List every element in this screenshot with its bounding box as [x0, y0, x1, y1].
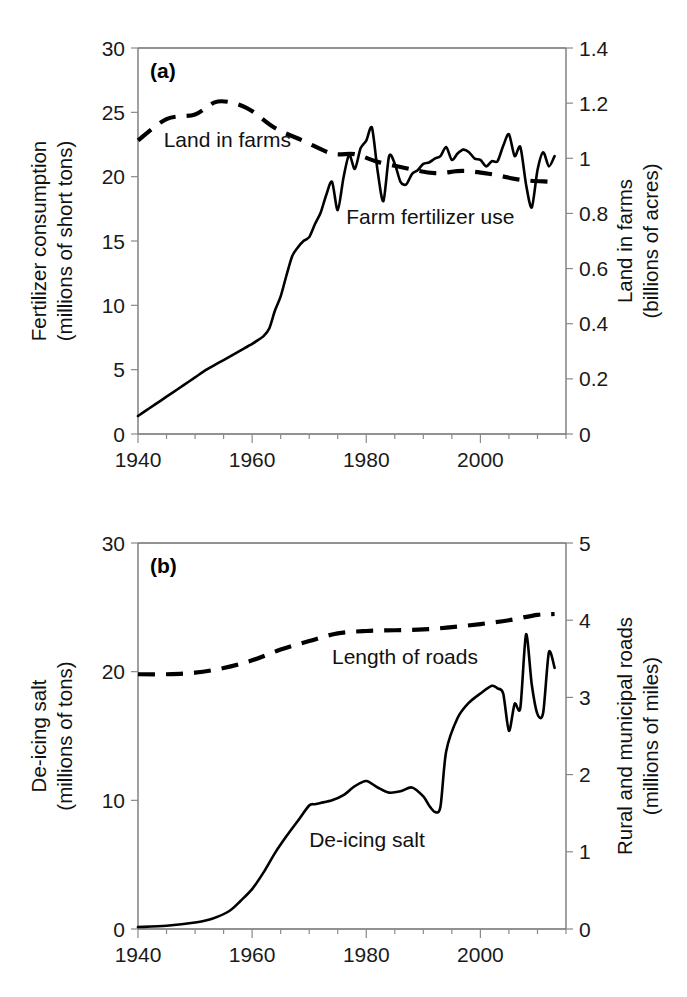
annotation-length-of-roads: Length of roads: [332, 645, 478, 668]
y2-axis-tick-label: 0.2: [579, 367, 608, 390]
chart-b-svg: 01020300123451940196019802000De-icing sa…: [0, 495, 687, 997]
y2-axis-title-line2: (millions of miles): [639, 657, 662, 815]
y2-axis-tick-label: 5: [579, 532, 591, 555]
figure-container: 05101520253000.20.40.60.811.21.419401960…: [0, 0, 687, 997]
y2-axis-title-line1: Land in farms: [613, 179, 636, 303]
y-axis-tick-label: 10: [102, 789, 125, 812]
series-line-farm-fertilizer-use: [138, 127, 555, 416]
y2-axis-tick-label: 4: [579, 609, 591, 632]
y-axis-tick-label: 20: [102, 165, 125, 188]
y-axis-tick-label: 30: [102, 532, 125, 555]
y2-axis-tick-label: 0: [579, 423, 591, 446]
annotation-de-icing-salt: De-icing salt: [309, 828, 425, 851]
x-axis-tick-label: 1940: [115, 448, 162, 471]
x-axis-tick-label: 1940: [115, 943, 162, 966]
y2-axis-tick-label: 2: [579, 763, 591, 786]
x-axis-tick-label: 2000: [457, 943, 504, 966]
chart-panel-b: 01020300123451940196019802000De-icing sa…: [0, 495, 687, 997]
y-axis-tick-label: 15: [102, 230, 125, 253]
x-axis-tick-label: 1980: [343, 943, 390, 966]
y-axis-tick-label: 20: [102, 660, 125, 683]
chart-panel-a: 05101520253000.20.40.60.811.21.419401960…: [0, 0, 687, 500]
y2-axis-tick-label: 1: [579, 840, 591, 863]
chart-a-svg: 05101520253000.20.40.60.811.21.419401960…: [0, 0, 687, 500]
x-axis-tick-label: 1960: [229, 943, 276, 966]
x-axis-tick-label: 2000: [457, 448, 504, 471]
annotation-farm-fertilizer-use: Farm fertilizer use: [346, 205, 514, 228]
annotation-land-in-farms: Land in farms: [164, 128, 291, 151]
x-axis-tick-label: 1960: [229, 448, 276, 471]
y2-axis-tick-label: 1.4: [579, 37, 609, 60]
y-axis-tick-label: 0: [113, 423, 125, 446]
y-axis-title-line1: De-icing salt: [27, 679, 50, 792]
y2-axis-tick-label: 1.2: [579, 92, 608, 115]
y2-axis-tick-label: 0.6: [579, 257, 608, 280]
y2-axis-tick-label: 1: [579, 147, 591, 170]
y-axis-title-line2: (millions of short tons): [53, 141, 76, 342]
y2-axis-title-line1: Rural and municipal roads: [613, 617, 636, 855]
y2-axis-tick-label: 3: [579, 686, 591, 709]
y-axis-title-line2: (millions of tons): [53, 661, 76, 810]
panel-tag-label: (b): [150, 554, 177, 577]
y2-axis-tick-label: 0: [579, 918, 591, 941]
y2-axis-tick-label: 0.4: [579, 312, 609, 335]
y-axis-tick-label: 30: [102, 37, 125, 60]
y2-axis-tick-label: 0.8: [579, 202, 608, 225]
y2-axis-title-line2: (billions of acres): [639, 164, 662, 319]
series-line-de-icing-salt: [138, 634, 555, 927]
y-axis-title-line1: Fertilizer consumption: [27, 141, 50, 342]
y-axis-tick-label: 0: [113, 918, 125, 941]
x-axis-tick-label: 1980: [343, 448, 390, 471]
panel-tag-label: (a): [150, 59, 176, 82]
y-axis-tick-label: 10: [102, 294, 125, 317]
y-axis-tick-label: 5: [113, 358, 125, 381]
y-axis-tick-label: 25: [102, 101, 125, 124]
